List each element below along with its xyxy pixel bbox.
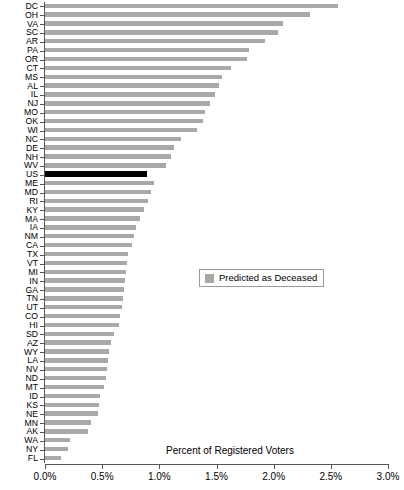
bar-la xyxy=(45,358,108,362)
bar-us xyxy=(45,171,147,177)
y-axis-label-fl: FL xyxy=(0,454,38,463)
bar-row xyxy=(45,303,388,312)
bar-row xyxy=(45,419,388,428)
bar-row xyxy=(45,224,388,233)
bar-sc xyxy=(45,30,278,34)
bar-ar xyxy=(45,39,265,43)
y-tick xyxy=(40,122,45,123)
y-tick xyxy=(40,264,45,265)
bar-row xyxy=(45,91,388,100)
y-tick xyxy=(40,104,45,105)
x-axis-label-3-0pct: 3.0% xyxy=(366,471,404,483)
bar-hi xyxy=(45,323,119,327)
bar-tx xyxy=(45,252,128,256)
bar-row xyxy=(45,2,388,11)
x-tick xyxy=(159,464,160,469)
bar-wa xyxy=(45,438,70,442)
bar-mn xyxy=(45,420,91,424)
x-tick xyxy=(102,464,103,469)
y-tick xyxy=(40,255,45,256)
bar-row xyxy=(45,401,388,410)
bar-row xyxy=(45,428,388,437)
bar-row xyxy=(45,179,388,188)
bar-row xyxy=(45,357,388,366)
y-tick xyxy=(40,68,45,69)
y-tick xyxy=(40,388,45,389)
bar-de xyxy=(45,145,174,149)
bar-oh xyxy=(45,12,310,16)
y-tick xyxy=(40,219,45,220)
bar-row xyxy=(45,135,388,144)
bar-nh xyxy=(45,154,171,158)
bar-nj xyxy=(45,101,210,105)
y-tick xyxy=(40,299,45,300)
y-tick xyxy=(40,193,45,194)
bar-nd xyxy=(45,376,106,380)
bar-ut xyxy=(45,305,122,309)
bar-wy xyxy=(45,349,109,353)
bar-row xyxy=(45,108,388,117)
bar-row xyxy=(45,73,388,82)
bar-nv xyxy=(45,367,107,371)
legend-swatch-predicted-as-deceased xyxy=(205,274,214,283)
y-tick xyxy=(40,60,45,61)
bar-ny xyxy=(45,447,68,451)
bar-row xyxy=(45,392,388,401)
bar-row xyxy=(45,330,388,339)
bar-row xyxy=(45,37,388,46)
bar-ri xyxy=(45,199,148,203)
bar-row xyxy=(45,374,388,383)
y-tick xyxy=(40,113,45,114)
y-tick xyxy=(40,42,45,43)
y-tick xyxy=(40,201,45,202)
bar-row xyxy=(45,215,388,224)
bar-me xyxy=(45,181,154,185)
bar-row xyxy=(45,241,388,250)
bar-row xyxy=(45,436,388,445)
x-tick xyxy=(274,464,275,469)
bar-row xyxy=(45,206,388,215)
bar-ct xyxy=(45,66,231,70)
y-tick xyxy=(40,272,45,273)
bar-row xyxy=(45,233,388,242)
y-tick xyxy=(40,210,45,211)
bar-co xyxy=(45,314,120,318)
y-tick xyxy=(40,361,45,362)
bar-ia xyxy=(45,225,136,229)
bar-ca xyxy=(45,243,132,247)
y-tick xyxy=(40,51,45,52)
y-axis-line xyxy=(44,2,45,463)
bar-row xyxy=(45,100,388,109)
bar-row xyxy=(45,188,388,197)
y-tick xyxy=(40,237,45,238)
y-tick xyxy=(40,290,45,291)
x-axis-label-2-0pct: 2.0% xyxy=(252,471,296,483)
x-axis-label-2-5pct: 2.5% xyxy=(309,471,353,483)
bar-row xyxy=(45,259,388,268)
x-tick xyxy=(45,464,46,469)
bar-ms xyxy=(45,75,222,79)
bar-wv xyxy=(45,163,166,167)
y-tick xyxy=(40,175,45,176)
y-tick xyxy=(40,334,45,335)
y-tick xyxy=(40,184,45,185)
bar-md xyxy=(45,190,151,194)
bar-ga xyxy=(45,287,124,291)
x-axis-label-1-5pct: 1.5% xyxy=(195,471,239,483)
bar-row xyxy=(45,348,388,357)
chart-legend: Predicted as Deceased xyxy=(199,269,324,287)
bar-sd xyxy=(45,332,114,336)
bar-mi xyxy=(45,270,126,274)
y-tick xyxy=(40,379,45,380)
plot-area xyxy=(45,2,388,463)
bar-row xyxy=(45,126,388,135)
y-tick xyxy=(40,166,45,167)
y-tick xyxy=(40,370,45,371)
bar-row xyxy=(45,82,388,91)
bar-row xyxy=(45,162,388,171)
y-tick xyxy=(40,343,45,344)
x-axis-title: Percent of Registered Voters xyxy=(130,445,330,456)
bar-row xyxy=(45,144,388,153)
y-tick xyxy=(40,397,45,398)
